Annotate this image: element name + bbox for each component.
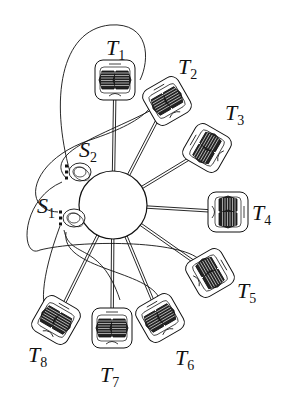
network-diagram: T1T2T3T4T5T6T7T8S1S2 — [0, 0, 286, 402]
spoke-T8 — [66, 236, 99, 303]
label-t8: T8 — [28, 342, 47, 370]
label-t7: T7 — [100, 362, 119, 390]
node-t3[interactable] — [180, 121, 235, 176]
switch-s1[interactable] — [59, 209, 86, 230]
label-t2: T2 — [178, 54, 197, 82]
wire-6 — [66, 232, 160, 300]
node-t1[interactable] — [95, 60, 135, 100]
spoke-T8 — [64, 235, 97, 302]
spoke-T3 — [141, 157, 189, 186]
label-t1: T1 — [106, 35, 125, 63]
label-t3: T3 — [225, 100, 244, 128]
node-t4[interactable] — [208, 192, 248, 232]
label-s1: S1 — [37, 193, 55, 221]
node-t7[interactable] — [92, 308, 132, 348]
spoke-T5 — [142, 224, 195, 261]
spoke-T7 — [111, 239, 112, 308]
spoke-T7 — [113, 239, 114, 308]
node-t2[interactable] — [140, 74, 195, 129]
spoke-T1 — [115, 100, 116, 171]
label-t5: T5 — [237, 278, 256, 306]
label-t4: T4 — [252, 200, 271, 228]
spoke-T6 — [125, 237, 151, 300]
label-t6: T6 — [175, 345, 194, 373]
node-t8[interactable] — [29, 293, 84, 348]
central-hub — [79, 171, 147, 239]
switch-s2[interactable] — [65, 163, 92, 184]
spoke-T1 — [112, 100, 113, 171]
label-s2: S2 — [79, 137, 97, 165]
spoke-T5 — [140, 225, 193, 262]
spoke-T2 — [128, 118, 157, 174]
spoke-T3 — [143, 159, 191, 188]
node-t6[interactable] — [133, 291, 188, 346]
spoke-T2 — [130, 119, 159, 175]
